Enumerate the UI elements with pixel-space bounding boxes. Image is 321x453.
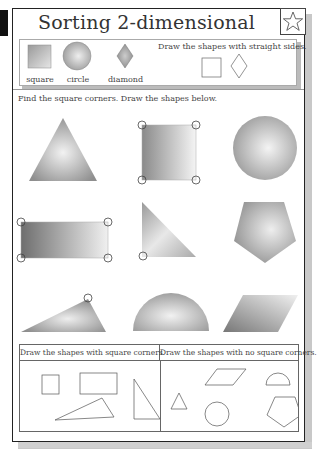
worksheet-page: Sorting 2-dimensional shapes: [12, 8, 305, 442]
shapes-grid: [13, 9, 306, 344]
circle-shape: [233, 116, 297, 180]
semicircle-shape: [133, 293, 209, 331]
right-triangle-shape: [139, 202, 196, 260]
outline-semicircle: [266, 373, 290, 385]
parallelogram-shape: [223, 295, 298, 332]
page-bottom-shadow: [18, 442, 312, 448]
triangle-shape: [29, 118, 97, 181]
square-shape: [138, 121, 200, 184]
outline-pentagon: [267, 397, 298, 427]
outline-right-triangle: [134, 379, 160, 419]
obtuse-triangle-shape: [21, 294, 106, 332]
pentagon-shape: [234, 202, 296, 263]
rectangle-shape: [17, 218, 112, 262]
outline-parallelogram: [205, 369, 246, 385]
sorting-table: Draw the shapes with square corners. Dra…: [19, 344, 299, 432]
column-header-no-square-corners: Draw the shapes with no square corners.: [160, 345, 298, 361]
outline-rectangle: [80, 373, 117, 394]
outline-square: [42, 375, 59, 394]
outline-circle: [205, 402, 229, 426]
outline-triangle: [171, 393, 187, 409]
column-header-square-corners: Draw the shapes with square corners.: [20, 345, 160, 361]
page-tab-marker: [0, 10, 8, 36]
table-outline-shapes: [20, 361, 298, 431]
outline-obtuse-triangle: [55, 398, 114, 420]
